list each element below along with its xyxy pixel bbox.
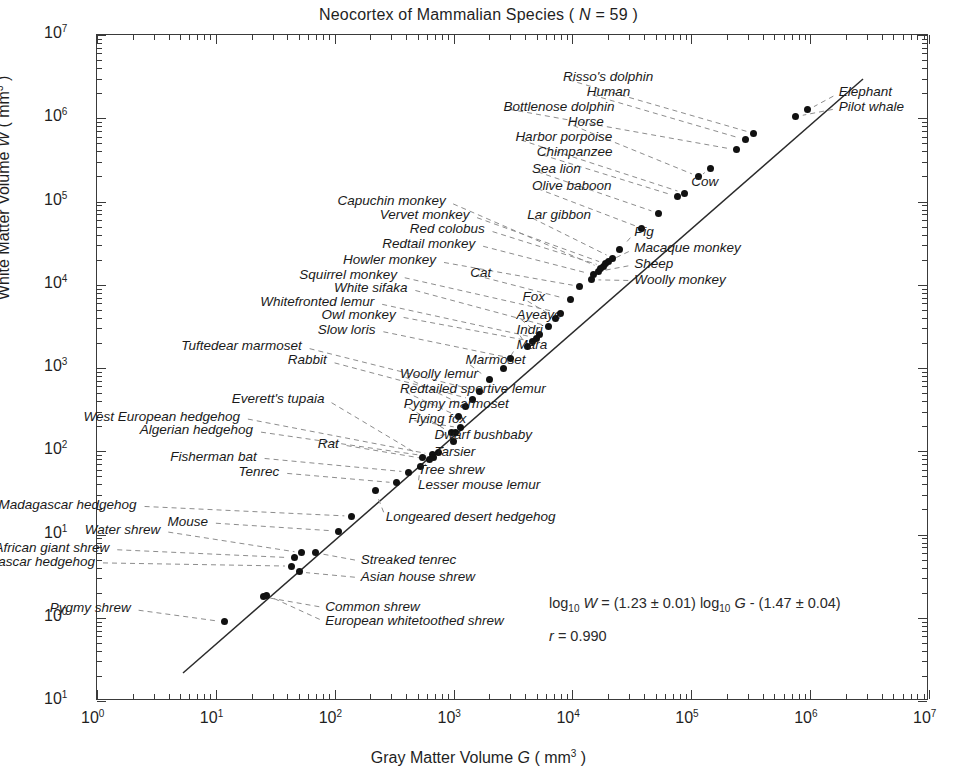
y-minor-tick	[97, 293, 102, 294]
x-minor-tick-top	[567, 35, 568, 40]
y-minor-tick-right	[922, 553, 927, 554]
y-minor-tick	[97, 426, 102, 427]
data-point	[681, 190, 688, 197]
x-minor-tick	[418, 694, 419, 699]
x-minor-tick-top	[273, 35, 274, 40]
x-major-tick-top	[929, 35, 930, 44]
y-minor-tick-right	[922, 227, 927, 228]
y-minor-tick-right	[922, 484, 927, 485]
x-minor-tick-top	[561, 35, 562, 40]
x-minor-tick	[561, 694, 562, 699]
y-minor-tick-right	[922, 622, 927, 623]
x-minor-tick	[204, 694, 205, 699]
y-minor-tick-right	[922, 376, 927, 377]
x-major-tick	[691, 690, 692, 699]
x-minor-tick-top	[763, 35, 764, 40]
y-minor-tick	[97, 176, 102, 177]
y-minor-tick-right	[922, 470, 927, 471]
point-label: Vervet monkey	[380, 208, 470, 222]
x-minor-tick	[629, 694, 630, 699]
point-label: Fisherman bat	[170, 450, 256, 464]
point-label: Lesser mouse lemur	[418, 478, 540, 492]
y-minor-tick-right	[922, 162, 927, 163]
y-minor-tick-right	[922, 220, 927, 221]
x-minor-tick	[154, 694, 155, 699]
point-label: Woolly monkey	[634, 273, 726, 287]
data-point	[655, 210, 662, 217]
point-label: Streaked tenrec	[361, 553, 456, 567]
y-major-tick	[97, 35, 106, 36]
x-tick-label: 102	[319, 708, 342, 727]
x-minor-tick	[673, 694, 674, 699]
point-label: Fox	[523, 290, 546, 304]
x-minor-tick-top	[727, 35, 728, 40]
x-minor-tick-top	[903, 35, 904, 40]
y-minor-tick-right	[922, 53, 927, 54]
y-minor-tick	[97, 131, 102, 132]
data-point	[750, 130, 757, 137]
x-minor-tick	[546, 694, 547, 699]
y-minor-tick-right	[922, 495, 927, 496]
point-label: Human	[587, 85, 631, 99]
x-minor-tick-top	[448, 35, 449, 40]
x-minor-tick-top	[316, 35, 317, 40]
y-major-tick-right	[918, 202, 927, 203]
point-label: Redtail monkey	[382, 237, 475, 251]
y-minor-tick-right	[922, 43, 927, 44]
x-minor-tick	[169, 694, 170, 699]
data-point	[545, 323, 552, 330]
x-minor-tick	[763, 694, 764, 699]
y-minor-tick	[97, 547, 102, 548]
x-minor-tick	[867, 694, 868, 699]
y-minor-tick	[97, 214, 102, 215]
point-label: Whitefronted lemur	[260, 295, 374, 309]
y-minor-tick	[97, 509, 102, 510]
point-label: Pig	[634, 225, 654, 239]
y-minor-tick-right	[922, 143, 927, 144]
y-minor-tick-right	[922, 210, 927, 211]
data-point	[567, 296, 574, 303]
y-minor-tick	[97, 289, 102, 290]
y-minor-tick	[97, 386, 102, 387]
intercept-term: - (1.47 ± 0.04)	[750, 595, 841, 611]
y-minor-tick-right	[922, 176, 927, 177]
x-minor-tick-top	[911, 35, 912, 40]
x-minor-tick-top	[680, 35, 681, 40]
x-tick-label: 105	[675, 708, 698, 727]
y-minor-tick-right	[922, 310, 927, 311]
y-minor-tick	[97, 631, 102, 632]
x-minor-tick-top	[370, 35, 371, 40]
y-minor-tick	[97, 676, 102, 677]
fit-annotation: log10 W = (1.23 ± 0.01) log10 G - (1.47 …	[549, 587, 841, 654]
y-major-tick-right	[918, 618, 927, 619]
x-minor-tick	[882, 694, 883, 699]
point-label: Elephant	[839, 85, 892, 99]
point-label: Pygmy marmoset	[404, 397, 509, 411]
x-major-tick-top	[335, 35, 336, 44]
y-tick-label: 103	[44, 356, 67, 375]
y-minor-tick-right	[922, 568, 927, 569]
x-minor-tick	[911, 694, 912, 699]
y-minor-tick-right	[922, 122, 927, 123]
x-minor-tick	[442, 694, 443, 699]
y-major-tick	[97, 118, 106, 119]
x-major-tick-top	[691, 35, 692, 44]
y-minor-tick-right	[922, 131, 927, 132]
y-minor-tick	[97, 227, 102, 228]
point-label: Tenrec	[238, 465, 279, 479]
y-minor-tick-right	[922, 318, 927, 319]
y-minor-tick	[97, 310, 102, 311]
point-label: Olive baboon	[532, 179, 612, 193]
x-minor-tick	[917, 694, 918, 699]
y-minor-tick-right	[922, 381, 927, 382]
x-tick-label: 103	[438, 708, 461, 727]
x-minor-tick	[846, 694, 847, 699]
y-minor-tick-right	[922, 626, 927, 627]
correlation-coefficient: r 0.99= 0.990	[549, 620, 841, 653]
x-tick-label: 104	[556, 708, 579, 727]
y-minor-tick	[97, 151, 102, 152]
y-major-tick	[97, 618, 106, 619]
x-minor-tick-top	[210, 35, 211, 40]
point-label: Howler monkey	[343, 253, 436, 267]
y-minor-tick-right	[922, 476, 927, 477]
